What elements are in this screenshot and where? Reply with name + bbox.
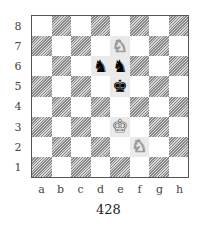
square-f5 [130,76,150,96]
black-king-icon: ♚ [112,78,127,95]
square-a1 [32,157,52,177]
white-knight-icon: ♘ [112,38,127,55]
rank-label-4: 4 [12,100,24,113]
square-g1 [149,157,169,177]
file-label-a: a [32,183,51,196]
square-a6 [32,56,52,76]
piece-backdrop: ♞ [91,56,111,76]
square-d6: ♞ [91,56,111,76]
square-e4 [110,97,130,117]
square-f4 [130,97,150,117]
diagram-caption: 428 [0,202,197,217]
square-f8 [130,16,150,36]
square-c5 [71,76,91,96]
square-a2 [32,137,52,157]
square-h6 [169,56,189,76]
rank-label-5: 5 [12,80,24,93]
square-a7 [32,36,52,56]
square-c3 [71,117,91,137]
file-label-e: e [111,183,130,196]
square-h8 [169,16,189,36]
black-knight-icon: ♞ [93,58,108,75]
square-c8 [71,16,91,36]
square-c6 [71,56,91,76]
square-a8 [32,16,52,36]
square-h4 [169,97,189,117]
square-b1 [52,157,72,177]
piece-backdrop: ♘ [130,137,150,157]
square-g6 [149,56,169,76]
file-label-b: b [51,183,70,196]
rank-label-7: 7 [12,40,24,53]
square-h5 [169,76,189,96]
square-f7 [130,36,150,56]
square-b3 [52,117,72,137]
file-label-f: f [130,183,149,196]
square-e5: ♚ [110,76,130,96]
rank-label-6: 6 [12,60,24,73]
square-b5 [52,76,72,96]
square-d5 [91,76,111,96]
rank-label-3: 3 [12,121,24,134]
piece-backdrop: ♞ [110,56,130,76]
square-g4 [149,97,169,117]
file-label-d: d [91,183,110,196]
square-c4 [71,97,91,117]
square-h3 [169,117,189,137]
file-label-c: c [71,183,90,196]
square-d1 [91,157,111,177]
black-knight-icon: ♞ [112,58,127,75]
square-e7: ♘ [110,36,130,56]
square-h2 [169,137,189,157]
square-g3 [149,117,169,137]
piece-backdrop: ♚ [110,76,130,96]
square-d8 [91,16,111,36]
square-b7 [52,36,72,56]
square-d7 [91,36,111,56]
square-g7 [149,36,169,56]
square-e8 [110,16,130,36]
square-e3: ♔ [110,117,130,137]
square-g2 [149,137,169,157]
square-b8 [52,16,72,36]
piece-backdrop: ♘ [110,36,130,56]
square-a4 [32,97,52,117]
square-f3 [130,117,150,137]
square-a5 [32,76,52,96]
square-b6 [52,56,72,76]
file-label-h: h [170,183,189,196]
square-h7 [169,36,189,56]
square-e6: ♞ [110,56,130,76]
square-c2 [71,137,91,157]
square-d3 [91,117,111,137]
square-b4 [52,97,72,117]
square-e2 [110,137,130,157]
white-king-icon: ♔ [112,118,127,135]
square-f2: ♘ [130,137,150,157]
file-label-g: g [150,183,169,196]
rank-label-8: 8 [12,20,24,33]
square-d2 [91,137,111,157]
rank-label-1: 1 [12,161,24,174]
square-h1 [169,157,189,177]
white-knight-icon: ♘ [132,138,147,155]
square-c1 [71,157,91,177]
square-e1 [110,157,130,177]
square-d4 [91,97,111,117]
square-f6 [130,56,150,76]
rank-label-2: 2 [12,141,24,154]
square-g5 [149,76,169,96]
square-c7 [71,36,91,56]
chess-board: ♘♞♞♚♔♘ [31,15,189,178]
square-b2 [52,137,72,157]
square-g8 [149,16,169,36]
square-a3 [32,117,52,137]
square-f1 [130,157,150,177]
piece-backdrop: ♔ [110,117,130,137]
